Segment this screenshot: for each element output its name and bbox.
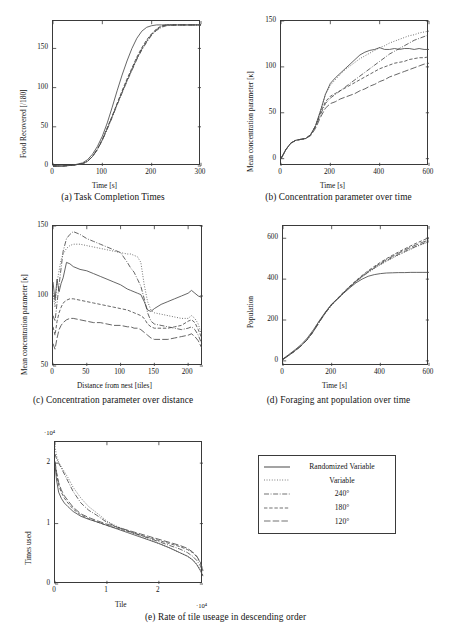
x-tick-label: 2 [156,586,160,594]
series-solid [55,465,203,576]
y-tick-label: 1 [20,519,50,527]
panel-a: Food Recovered [/180] 010020030005010015… [0,0,226,205]
panel-e-xlabel: Tile [115,600,127,609]
x-tick-label: 600 [423,168,434,176]
figure-legend: Randomized VariableVariable240°180°120° [258,455,396,534]
x-tick-label: 200 [145,168,156,176]
y-tick-label: 100 [18,291,48,299]
x-tick-label: 400 [374,368,385,376]
x-tick-label: 0 [52,586,56,594]
y-tick-label: 0 [248,356,278,364]
legend-rows: Randomized VariableVariable240°180°120° [264,460,389,528]
panel-a-curves [53,21,201,166]
panel-d: Population 02004006000200400600 Time [s]… [226,203,451,408]
panel-b-plot [280,20,428,165]
x-tick-label: 0 [278,168,282,176]
y-tick-label: 2 [20,458,50,466]
series-dashdot [53,25,201,166]
y-tick-label: 400 [248,274,278,282]
panel-e-curves [55,442,203,584]
panel-b-xlabel: Time [s] [320,181,345,190]
y-tick-label: 150 [18,43,48,51]
legend-line-dashed-icon [264,503,290,513]
x-tick-label: 0 [50,368,54,376]
series-dotted [53,244,202,335]
x-tick-label: 0 [50,168,54,176]
y-tick-label: 0 [246,154,276,162]
legend-line-dashdot-icon [264,489,290,499]
y-tick-label: 600 [248,233,278,241]
panel-b-caption: (b) Concentration parameter over time [226,192,451,202]
series-longdash [281,63,429,158]
series-solid [281,48,429,159]
x-tick-label: 600 [423,368,434,376]
y-tick-label: 150 [246,16,276,24]
legend-item: Randomized Variable [264,460,389,474]
panel-a-plot [52,20,200,165]
series-longdash [53,25,201,166]
multi-panel-figure: Food Recovered [/180] 010020030005010015… [0,0,451,636]
panel-e: Times used ·10⁴ 012012 Tile ·10⁴ (e) Rat… [0,425,451,636]
x-tick-label: 300 [195,168,206,176]
y-tick-label: 100 [18,83,48,91]
legend-label: 240° [295,489,389,498]
panel-e-caption: (e) Rate of tile useage in descending or… [0,612,451,622]
legend-item: Variable [264,474,389,488]
panel-d-caption: (d) Foraging ant population over time [226,395,451,405]
series-solid [53,262,202,311]
series-longdash [53,318,202,349]
panel-c-ylabel: Mean concentration parameter [κ] [20,274,29,375]
x-tick-label: 100 [114,368,125,376]
legend-item: 180° [264,501,389,515]
x-tick-label: 400 [373,168,384,176]
panel-e-y-multiplier: ·10⁴ [44,429,55,436]
y-tick-label: 150 [18,221,48,229]
y-tick-label: 50 [246,108,276,116]
x-tick-label: 200 [324,168,335,176]
legend-line-longdash-icon [264,516,290,526]
panel-b-curves [281,21,429,166]
y-tick-label: 100 [246,62,276,70]
panel-c-plot [52,225,202,365]
panel-c-xlabel: Distance from nest [tiles] [77,381,152,390]
y-tick-label: 0 [20,579,50,587]
legend-item: 240° [264,487,389,501]
x-tick-label: 100 [96,168,107,176]
panel-d-ylabel: Population [246,296,255,328]
legend-label: Randomized Variable [295,462,389,471]
series-dashdot [55,454,203,572]
panel-c: Mean concentration parameter [κ] 0501001… [0,203,226,408]
x-tick-label: 50 [82,368,89,376]
series-solid [283,272,429,358]
series-dashed [281,57,429,159]
panel-c-curves [53,226,203,366]
series-longdash [55,461,203,570]
legend-line-solid-icon [264,462,290,472]
panel-b: Mean concentration parameter [κ] 0200400… [226,0,451,205]
panel-c-caption: (c) Concentration parameter over distanc… [0,395,226,405]
y-tick-label: 200 [248,315,278,323]
panel-a-caption: (a) Task Completion Times [0,192,226,202]
series-dotted [53,25,201,166]
series-dashdot [283,241,429,359]
panel-d-xlabel: Time [s] [322,381,347,390]
legend-label: 120° [295,517,389,526]
series-dashed [53,25,201,166]
x-tick-label: 200 [325,368,336,376]
panel-e-plot [54,441,202,583]
y-tick-label: 50 [18,361,48,369]
panel-d-plot [282,225,428,365]
panel-e-x-multiplier: ·10⁴ [196,602,207,609]
x-tick-label: 150 [148,368,159,376]
series-dashed [55,463,203,571]
panel-a-xlabel: Time [s] [92,181,117,190]
x-tick-label: 0 [280,368,284,376]
legend-label: Variable [295,476,389,485]
y-tick-label: 0 [18,161,48,169]
series-dashdot [281,35,429,159]
series-dotted [281,31,429,159]
panel-e-ylabel: Times used [24,531,33,565]
legend-item: 120° [264,514,389,528]
y-tick-label: 50 [18,122,48,130]
panel-d-curves [283,226,429,366]
